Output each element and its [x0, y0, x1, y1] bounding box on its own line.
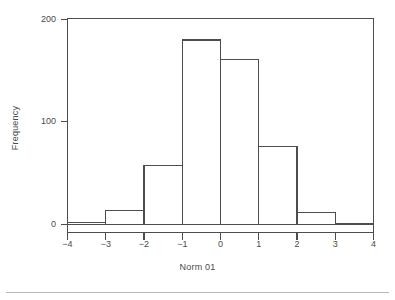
histogram-bar — [335, 223, 373, 224]
y-tick-label: 0 — [16, 219, 56, 229]
x-tick-label: 2 — [284, 239, 310, 249]
x-tick-label: 1 — [246, 239, 272, 249]
x-tick-label: −2 — [131, 239, 157, 249]
x-axis-label: Norm 01 — [0, 262, 395, 272]
x-tick-label: 3 — [322, 239, 348, 249]
x-tick-label: 4 — [361, 239, 387, 249]
histogram-bar — [182, 40, 220, 225]
histogram-bar — [144, 165, 182, 224]
y-axis-ticks — [61, 20, 68, 225]
x-tick-label: 0 — [208, 239, 234, 249]
histogram-bar — [259, 147, 297, 225]
histogram-figure: 0 100 200 −4 −3 −2 −1 0 1 2 3 4 Frequenc… — [0, 0, 395, 300]
page-divider — [6, 292, 389, 293]
y-axis-label: Frequency — [10, 88, 20, 168]
x-tick-label: −4 — [55, 239, 81, 249]
histogram-bar — [106, 210, 144, 224]
x-tick-label: −1 — [169, 239, 195, 249]
histogram-bar — [297, 212, 335, 224]
histogram-bar — [68, 222, 106, 224]
histogram-plot-area — [0, 0, 395, 300]
histogram-bar — [221, 59, 259, 224]
y-tick-label: 200 — [16, 14, 56, 24]
x-tick-label: −3 — [93, 239, 119, 249]
y-tick-label: 100 — [16, 116, 56, 126]
